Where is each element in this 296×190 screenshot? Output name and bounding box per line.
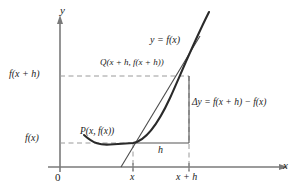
curve-equation-label: y = f(x) [150,35,180,45]
figure-canvas [0,0,296,190]
y-axis-label: y [60,5,65,16]
x-tick-label-x: x [130,172,134,182]
origin-label: 0 [55,172,61,183]
y-tick-label-f-x: f(x) [25,133,39,143]
run-h-label: h [158,145,163,155]
y-axis-arrowhead [57,15,63,24]
derivative-secant-figure: y x 0 f(x + h) f(x) x x + h y = f(x) Q(x… [0,0,296,190]
point-q-label: Q(x + h, f(x + h)) [100,58,164,67]
x-axis-label: x [283,160,288,171]
guide-lines-group [60,76,189,172]
y-tick-label-f-x-plus-h: f(x + h) [9,69,40,79]
delta-y-label: Δy = f(x + h) − f(x) [192,98,266,108]
x-tick-label-x-plus-h: x + h [176,172,197,182]
point-p-label: P(x, f(x)) [80,127,114,137]
